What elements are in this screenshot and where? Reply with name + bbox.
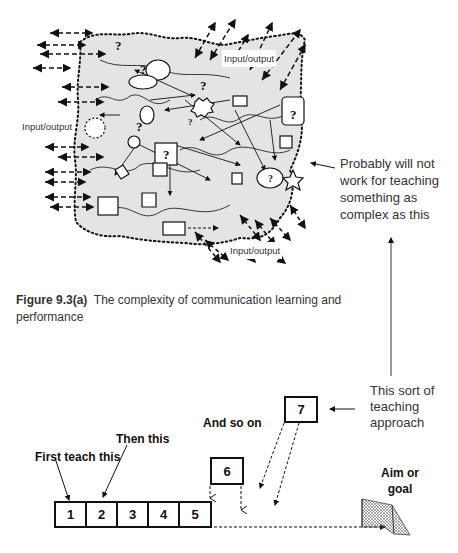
step-box-2: 2	[85, 501, 118, 528]
approach-line: teaching	[370, 399, 434, 415]
svg-text:?: ?	[136, 119, 143, 134]
box-shape-small-2	[280, 136, 292, 148]
step-box-5: 5	[178, 501, 212, 528]
box-shape-bottom	[163, 222, 185, 235]
first-teach-label: First teach this	[35, 449, 120, 466]
figure-caption: Figure 9.3(a) The complexity of communic…	[16, 292, 346, 326]
svg-text:?: ?	[200, 78, 207, 93]
goal-net-icon	[362, 499, 410, 535]
step-box-3: 3	[116, 501, 149, 528]
box-shape-3d	[98, 197, 118, 215]
note-line: work for teaching	[340, 172, 455, 189]
goal-line: Aim or	[375, 465, 425, 481]
svg-text:?: ?	[140, 62, 147, 77]
step-box-1: 1	[54, 501, 87, 528]
note-line: Probably will not	[340, 155, 455, 172]
svg-text:?: ?	[115, 38, 122, 53]
then-this-label: Then this	[116, 431, 169, 448]
note-line: complex as this	[340, 206, 455, 223]
io-label-top: Input/output	[222, 50, 276, 67]
approach-line: This sort of	[370, 383, 434, 399]
step-box-7: 7	[284, 396, 318, 423]
io-label-left: Input/output	[20, 118, 74, 135]
svg-text:?: ?	[268, 173, 273, 184]
goal-line: goal	[375, 481, 425, 497]
svg-text:?: ?	[290, 107, 297, 122]
and-so-on-label: And so on	[203, 415, 262, 432]
approach-label: This sort of teaching approach	[370, 383, 434, 431]
smiley-shape	[128, 136, 140, 148]
approach-line: approach	[370, 415, 434, 431]
complexity-note: Probably will not work for teaching some…	[340, 155, 455, 223]
dashed-circle-shape	[85, 118, 105, 138]
note-line: something as	[340, 189, 455, 206]
face-oval-shape	[129, 75, 157, 89]
caption-label: Figure 9.3(a)	[16, 293, 87, 307]
cup-shape	[142, 193, 156, 207]
io-label-bottom: Input/output	[228, 242, 282, 259]
step-box-4: 4	[147, 501, 180, 528]
box-shape	[233, 96, 247, 106]
cup-shape-2	[232, 173, 242, 184]
note-pointer-arrow	[311, 163, 335, 168]
svg-text:?: ?	[188, 117, 193, 127]
goal-label: Aim or goal	[375, 465, 425, 497]
svg-text:?: ?	[163, 147, 170, 162]
box-shape-small	[153, 163, 167, 176]
step-box-6: 6	[210, 457, 244, 485]
